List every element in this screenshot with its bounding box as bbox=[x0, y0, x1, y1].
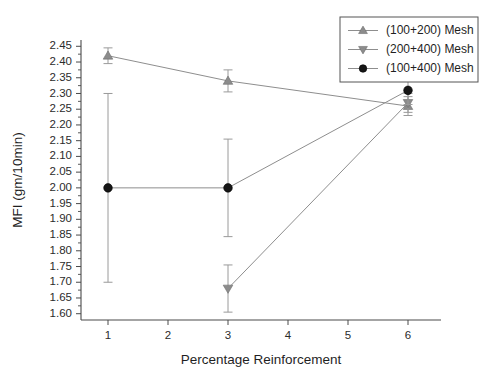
legend-label: (100+400) Mesh bbox=[386, 61, 474, 75]
y-tick-label: 1.60 bbox=[50, 307, 72, 319]
data-point-marker bbox=[103, 51, 113, 59]
y-axis-ticks: 1.601.651.701.751.801.851.901.952.002.05… bbox=[50, 39, 81, 318]
y-tick-label: 1.95 bbox=[50, 197, 72, 209]
data-point-marker bbox=[223, 285, 233, 293]
y-tick-label: 2.05 bbox=[50, 165, 72, 177]
y-tick-label: 1.70 bbox=[50, 275, 72, 287]
chart-figure: 1.601.651.701.751.801.851.901.952.002.05… bbox=[0, 0, 485, 372]
chart-series bbox=[223, 93, 413, 312]
chart-svg: 1.601.651.701.751.801.851.901.952.002.05… bbox=[0, 0, 485, 372]
y-tick-label: 1.80 bbox=[50, 244, 72, 256]
y-tick-label: 2.00 bbox=[50, 181, 72, 193]
x-tick-label: 1 bbox=[105, 329, 111, 341]
y-tick-label: 2.10 bbox=[50, 149, 72, 161]
x-tick-label: 3 bbox=[225, 329, 231, 341]
y-tick-label: 2.35 bbox=[50, 71, 72, 83]
chart-series-layer bbox=[103, 48, 413, 312]
x-tick-label: 2 bbox=[165, 329, 171, 341]
chart-legend: (100+200) Mesh(200+400) Mesh(100+400) Me… bbox=[340, 17, 478, 82]
y-tick-label: 2.25 bbox=[50, 102, 72, 114]
data-point-marker bbox=[404, 86, 413, 95]
series-line bbox=[228, 103, 408, 289]
chart-series bbox=[104, 76, 413, 282]
y-tick-label: 2.40 bbox=[50, 55, 72, 67]
x-tick-label: 6 bbox=[405, 329, 411, 341]
y-tick-label: 2.15 bbox=[50, 134, 72, 146]
x-tick-label: 5 bbox=[345, 329, 351, 341]
y-tick-label: 2.20 bbox=[50, 118, 72, 130]
y-axis-title: MFI (gm/10min) bbox=[10, 132, 25, 227]
y-tick-label: 1.75 bbox=[50, 260, 72, 272]
x-axis-title: Percentage Reinforcement bbox=[181, 352, 342, 367]
y-tick-label: 1.85 bbox=[50, 228, 72, 240]
legend-label: (200+400) Mesh bbox=[386, 42, 474, 56]
y-tick-label: 1.65 bbox=[50, 291, 72, 303]
legend-marker bbox=[359, 65, 367, 73]
y-tick-label: 2.45 bbox=[50, 39, 72, 51]
data-point-marker bbox=[224, 184, 233, 193]
data-point-marker bbox=[104, 184, 113, 193]
legend-label: (100+200) Mesh bbox=[386, 23, 474, 37]
x-axis-ticks: 123456 bbox=[105, 320, 411, 341]
series-line bbox=[108, 90, 408, 188]
y-tick-label: 2.30 bbox=[50, 87, 72, 99]
y-tick-label: 1.90 bbox=[50, 212, 72, 224]
x-tick-label: 4 bbox=[285, 329, 292, 341]
